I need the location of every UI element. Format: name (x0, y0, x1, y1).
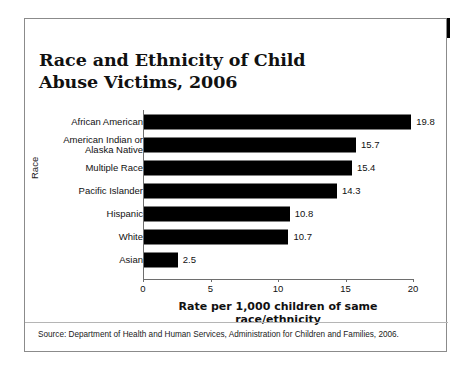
x-axis-tick-mark (278, 279, 279, 282)
bar-category-label: American Indian or Alaska Native (0, 134, 143, 155)
x-axis-tick-label: 15 (340, 283, 351, 294)
bar (144, 229, 288, 244)
x-axis-tick-mark (143, 279, 144, 282)
bar-value-label: 14.3 (342, 185, 361, 196)
bar-container: 19.8 (144, 114, 411, 129)
bar-value-label: 15.4 (357, 162, 376, 173)
bar-rows: African American19.8American Indian or A… (25, 110, 448, 271)
bar-value-label: 2.5 (183, 254, 196, 265)
bar-category-label: Hispanic (0, 208, 143, 218)
bar-value-label: 10.7 (293, 231, 312, 242)
x-axis-tick-label: 20 (408, 283, 419, 294)
bar-category-label: African American (0, 116, 143, 126)
bar-row: Hispanic10.8 (25, 202, 448, 225)
bar-row: African American19.8 (25, 110, 448, 133)
bar-category-label: Pacific Islander (0, 185, 143, 195)
bar-chart: Race African American19.8American Indian… (25, 19, 448, 353)
bar-row: Pacific Islander14.3 (25, 179, 448, 202)
bar-value-label: 15.7 (361, 139, 380, 150)
bar-value-label: 10.8 (295, 208, 314, 219)
x-axis-tick-mark (211, 279, 212, 282)
bar-container: 10.8 (144, 206, 290, 221)
bar-container: 10.7 (144, 229, 288, 244)
bar (144, 114, 411, 129)
bar (144, 183, 337, 198)
bar-category-label: White (0, 231, 143, 241)
bar-category-label: Multiple Race (0, 162, 143, 172)
bar-value-label: 19.8 (416, 116, 435, 127)
bar-row: White10.7 (25, 225, 448, 248)
bar-container: 15.4 (144, 160, 352, 175)
bar (144, 160, 352, 175)
source-note: Source: Department of Health and Human S… (38, 329, 428, 341)
bar (144, 206, 290, 221)
bar-row: American Indian or Alaska Native15.7 (25, 133, 448, 156)
x-axis-tick-label: 5 (208, 283, 213, 294)
bar (144, 252, 178, 267)
fact-card: Race and Ethnicity of Child Abuse Victim… (24, 18, 447, 352)
bar-container: 2.5 (144, 252, 178, 267)
bar-row: Multiple Race15.4 (25, 156, 448, 179)
x-axis-tick-label: 10 (273, 283, 284, 294)
x-axis-tick-mark (413, 279, 414, 282)
source-divider (25, 322, 448, 323)
bar-container: 15.7 (144, 137, 356, 152)
x-axis-tick-label: 0 (140, 283, 145, 294)
x-axis-tick-mark (346, 279, 347, 282)
bar (144, 137, 356, 152)
bar-category-label: Asian (0, 254, 143, 264)
bar-row: Asian2.5 (25, 248, 448, 271)
bar-container: 14.3 (144, 183, 337, 198)
